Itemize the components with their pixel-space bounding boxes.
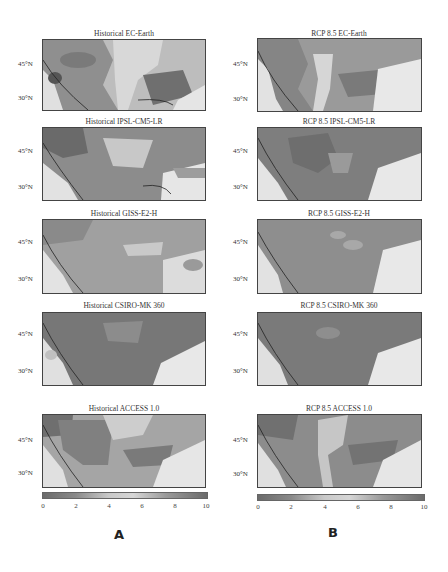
panel-title: Historical CSIRO-MK 360: [42, 301, 206, 310]
panel-title: Historical ACCESS 1.0: [42, 404, 206, 413]
colorbar-tick: 2: [289, 503, 293, 511]
map-panel: [42, 39, 206, 111]
panel-title: RCP 8.5 IPSL-CM5-LR: [257, 117, 421, 126]
panel-title: RCP 8.5 EC-Earth: [257, 29, 421, 38]
panel-title: RCP 8.5 GISS-E2-H: [257, 209, 421, 218]
column-label-a: A: [114, 527, 124, 542]
lat-label-45: 45°N: [233, 330, 248, 338]
colorbar-tick: 8: [173, 502, 177, 510]
colorbar-tick: 10: [421, 503, 428, 511]
lat-label-30: 30°N: [233, 183, 248, 191]
map-panel: [257, 127, 422, 201]
panel-title: Historical IPSL-CM5-LR: [42, 117, 206, 126]
lat-label-45: 45°N: [18, 60, 33, 68]
panel-title: RCP 8.5 ACCESS 1.0: [257, 404, 421, 413]
colorbar-tick: 6: [140, 502, 144, 510]
map-panel: [257, 219, 422, 294]
lat-label-45: 45°N: [233, 436, 248, 444]
map-panel: [257, 312, 422, 386]
panel-title: Historical EC-Earth: [42, 29, 206, 38]
lat-label-30: 30°N: [233, 470, 248, 478]
colorbar-tick: 0: [256, 503, 260, 511]
colorbar-tick: 0: [41, 502, 45, 510]
lat-label-45: 45°N: [18, 436, 33, 444]
colorbar-tick: 4: [107, 502, 111, 510]
colorbar-tick: 4: [323, 503, 327, 511]
lat-label-30: 30°N: [233, 367, 248, 375]
colorbar-tick: 2: [74, 502, 78, 510]
lat-label-45: 45°N: [18, 147, 33, 155]
lat-label-30: 30°N: [233, 275, 248, 283]
column-label-b: B: [328, 525, 338, 540]
map-panel: [257, 414, 422, 488]
lat-label-30: 30°N: [18, 183, 33, 191]
lat-label-45: 45°N: [233, 147, 248, 155]
lat-label-45: 45°N: [233, 60, 248, 68]
lat-label-45: 45°N: [233, 238, 248, 246]
lat-label-30: 30°N: [233, 95, 248, 103]
colorbar-a: [42, 492, 208, 499]
lat-label-30: 30°N: [18, 94, 33, 102]
map-panel: [257, 38, 422, 112]
lat-label-30: 30°N: [18, 275, 33, 283]
colorbar-tick: 10: [203, 502, 210, 510]
colorbar-tick: 8: [389, 503, 393, 511]
lat-label-45: 45°N: [18, 330, 33, 338]
map-panel: [42, 312, 206, 386]
colorbar-b: [257, 494, 425, 501]
panel-title: RCP 8.5 CSIRO-MK 360: [257, 301, 421, 310]
lat-label-30: 30°N: [18, 469, 33, 477]
colorbar-tick: 6: [356, 503, 360, 511]
map-panel: [42, 127, 206, 201]
map-panel: [42, 414, 206, 488]
lat-label-30: 30°N: [18, 367, 33, 375]
map-panel: [42, 219, 206, 294]
panel-title: Historical GISS-E2-H: [42, 209, 206, 218]
lat-label-45: 45°N: [18, 238, 33, 246]
